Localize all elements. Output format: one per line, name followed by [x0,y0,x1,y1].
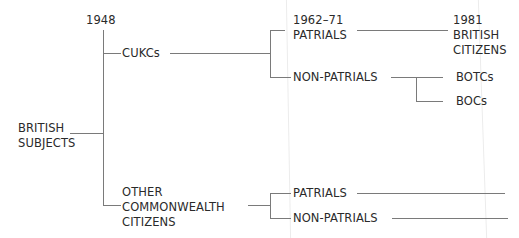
british-citizens-1981-node: 1981 BRITISH CITIZENS [453,13,507,58]
cukcs-branch [103,53,121,54]
british-subjects-connector [70,133,103,134]
other-commonwealth-bracket [270,193,271,219]
bocs-node: BOCs [456,94,487,109]
non-patrials-branch [270,77,291,78]
background-guide [286,0,291,238]
trunk-1948-line [103,30,104,206]
non-patrials-node-2: NON-PATRIALS [293,211,378,226]
non-patrials-node: NON-PATRIALS [293,70,378,85]
patrials-1962-branch [270,30,285,31]
botcs-node: BOTCs [456,70,494,85]
non-patrials-out-line [391,77,443,78]
cukcs-out-line [170,53,270,54]
patrials-1962-node: 1962–71 PATRIALS [293,13,347,43]
other-commonwealth-out-line [248,205,270,206]
other-commonwealth-node: OTHER COMMONWEALTH CITIZENS [122,185,225,230]
patrials-2-branch [270,193,291,194]
non-patrials-bracket [416,77,417,101]
patrials-node-2: PATRIALS [293,186,347,201]
patrials-to-citizens-line [357,30,448,31]
other-commonwealth-branch [103,205,121,206]
non-patrials-2-branch [270,218,291,219]
non-patrials-2-out-line [392,218,508,219]
citizenship-tree-diagram: 1948 BRITISH SUBJECTS CUKCs OTHER COMMON… [0,0,519,238]
cukcs-node: CUKCs [122,46,160,61]
cukcs-bracket [270,30,271,78]
patrials-2-out-line [357,193,505,194]
british-subjects-node: BRITISH SUBJECTS [18,121,75,151]
bocs-branch [416,101,443,102]
year-1948-label: 1948 [86,13,116,28]
